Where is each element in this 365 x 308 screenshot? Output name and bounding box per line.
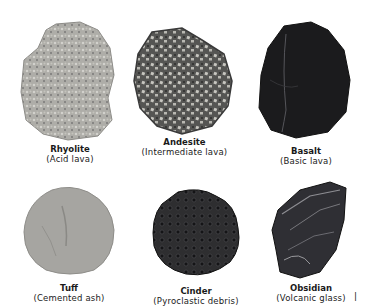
rhyolite-rock-image (18, 20, 118, 142)
cinder-caption: Cinder (Pyroclastic debris) (146, 286, 246, 306)
rock-description: (Acid lava) (30, 154, 110, 164)
rock-name: Rhyolite (30, 144, 110, 154)
rock-description: (Basic lava) (266, 156, 346, 166)
basalt-rock-image (256, 20, 354, 140)
basalt-caption: Basalt (Basic lava) (266, 146, 346, 166)
rock-name: Andesite (132, 137, 237, 147)
rock-description: (Intermediate lava) (132, 147, 237, 157)
rock-description: (Pyroclastic debris) (146, 296, 246, 306)
rock-description: (Cemented ash) (24, 293, 114, 303)
andesite-rock-image (132, 26, 237, 136)
rock-name: Cinder (146, 286, 246, 296)
rock-description: (Volcanic glass) (266, 293, 356, 303)
rhyolite-caption: Rhyolite (Acid lava) (30, 144, 110, 164)
rock-name: Obsidian (266, 283, 356, 293)
margin-mark: | (354, 291, 357, 301)
rock-name: Tuff (24, 283, 114, 293)
andesite-caption: Andesite (Intermediate lava) (132, 137, 237, 157)
cinder-rock-image (150, 188, 242, 278)
tuff-rock-image (22, 186, 116, 276)
obsidian-caption: Obsidian (Volcanic glass) (266, 283, 356, 303)
tuff-caption: Tuff (Cemented ash) (24, 283, 114, 303)
rock-name: Basalt (266, 146, 346, 156)
obsidian-rock-image (270, 180, 352, 280)
